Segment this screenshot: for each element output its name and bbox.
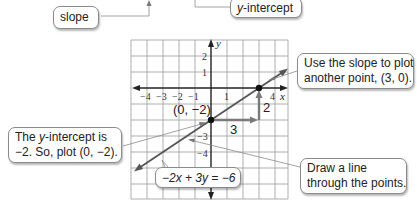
equation-text: −2x + 3y = −6 bbox=[162, 171, 235, 185]
run-label: 3 bbox=[230, 122, 237, 137]
point-label: (0, −2) bbox=[173, 102, 211, 117]
rise-label: 2 bbox=[263, 100, 270, 115]
slope-callout: slope bbox=[53, 6, 99, 29]
x-tick-neg2: −2 bbox=[172, 91, 183, 102]
y-intercept-note-callout: The y-intercept is −2. So, plot (0, −2). bbox=[8, 127, 122, 163]
point-y-intercept bbox=[208, 117, 214, 123]
equation-callout: −2x + 3y = −6 bbox=[155, 167, 241, 188]
y-intercept-connector bbox=[195, 0, 230, 7]
draw-line-line2: through the points. bbox=[307, 176, 400, 191]
y-tick-2: 2 bbox=[202, 51, 207, 62]
use-slope-callout: Use the slope to plot another point, (3,… bbox=[297, 53, 414, 89]
x-tick-1: 1 bbox=[224, 91, 229, 102]
slope-connector bbox=[101, 2, 149, 16]
point-3-0 bbox=[256, 85, 262, 91]
slope-callout-text: slope bbox=[60, 10, 89, 24]
draw-line-callout: Draw a line through the points. bbox=[300, 158, 407, 194]
y-intercept-rest: -intercept bbox=[243, 1, 293, 15]
y-tick-neg4: −4 bbox=[197, 148, 208, 159]
draw-line-line1: Draw a line bbox=[307, 161, 400, 176]
y-tick-1: 1 bbox=[202, 67, 207, 78]
use-slope-line1: Use the slope to plot bbox=[304, 56, 407, 71]
y-intercept-note-line1: The y-intercept is bbox=[15, 130, 115, 145]
x-axis-label: x bbox=[279, 90, 285, 102]
y-intercept-note-line2: −2. So, plot (0, −2). bbox=[15, 145, 115, 160]
x-tick-neg4: −4 bbox=[140, 91, 151, 102]
y-axis-label: y bbox=[215, 37, 221, 49]
x-tick-neg1: −1 bbox=[188, 91, 199, 102]
y-tick-neg3: −3 bbox=[197, 131, 208, 142]
x-tick-neg3: −3 bbox=[156, 91, 167, 102]
use-slope-line2: another point, (3, 0). bbox=[304, 71, 407, 86]
y-intercept-callout: y-intercept bbox=[230, 0, 302, 18]
x-tick-4: 4 bbox=[270, 91, 275, 102]
y-intercept-leader bbox=[123, 123, 205, 146]
slope-rise-arrow bbox=[256, 90, 263, 120]
